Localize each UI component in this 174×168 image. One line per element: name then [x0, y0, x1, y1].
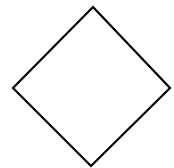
diagram-canvas	[0, 0, 174, 168]
diagram-svg	[0, 0, 174, 168]
decision-diamond-shape[interactable]	[13, 7, 170, 166]
